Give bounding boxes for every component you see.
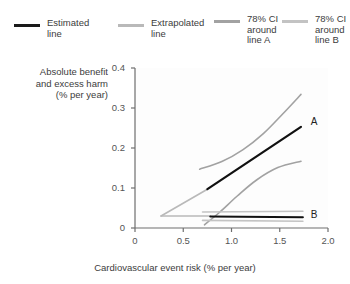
x-tick-label: 1.0 — [219, 235, 245, 246]
y-tick-label: 0.3 — [99, 102, 125, 113]
series-annotation-b: B — [311, 209, 318, 220]
series-line-b-estimated — [210, 216, 303, 217]
plot-area: 00.10.20.30.400.51.01.52.0AB — [0, 0, 350, 284]
y-tick-label: 0 — [99, 222, 125, 233]
x-axis-title: Cardiovascular event risk (% per year) — [0, 262, 350, 273]
x-tick-label: 2.0 — [315, 235, 341, 246]
y-tick-label: 0.1 — [99, 182, 125, 193]
chart-page: Estimated line Extrapolated line 78% CI … — [0, 0, 350, 284]
y-tick-label: 0.4 — [99, 62, 125, 73]
x-tick-label: 1.5 — [267, 235, 293, 246]
x-tick-label: 0 — [122, 235, 148, 246]
series-annotation-a: A — [311, 116, 318, 127]
plot-background — [135, 68, 328, 228]
x-tick-label: 0.5 — [170, 235, 196, 246]
series-ci-b-lower — [203, 220, 303, 221]
y-tick-label: 0.2 — [99, 142, 125, 153]
series-ci-b-upper — [203, 211, 303, 212]
